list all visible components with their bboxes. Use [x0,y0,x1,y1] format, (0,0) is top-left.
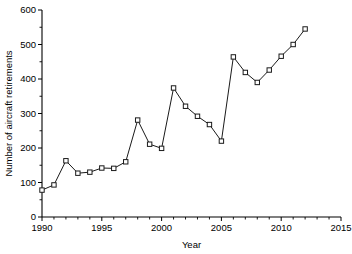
x-tick-label-1990: 1990 [31,222,52,233]
y-tick-label-100: 100 [20,177,36,188]
data-point-marker [291,42,295,46]
x-axis-title: Year [182,239,201,250]
data-point-marker [100,166,104,170]
y-tick-label-600: 600 [20,4,36,15]
y-tick-label-400: 400 [20,73,36,84]
data-series-aircraft-retirements [40,27,308,193]
x-axis: 199019952000200520102015 [31,217,351,233]
data-point-marker [303,27,307,31]
y-tick-label-300: 300 [20,108,36,119]
data-point-marker [231,55,235,59]
data-point-marker [219,139,223,143]
data-point-marker [76,171,80,175]
x-tick-label-1995: 1995 [91,222,112,233]
y-tick-label-200: 200 [20,142,36,153]
data-point-marker [52,183,56,187]
x-tick-label-2015: 2015 [330,222,351,233]
y-tick-label-0: 0 [31,211,36,222]
data-point-marker [171,86,175,90]
chart-figure: 0100200300400500600 19901995200020052010… [0,0,352,254]
data-point-marker [183,104,187,108]
data-point-marker [112,166,116,170]
y-tick-label-500: 500 [20,39,36,50]
data-point-marker [64,159,68,163]
data-point-marker [135,118,139,122]
x-tick-label-2005: 2005 [211,222,232,233]
data-point-marker [279,54,283,58]
data-point-marker [124,160,128,164]
y-axis-title: Number of aircraft retirements [3,50,14,176]
data-point-marker [207,122,211,126]
data-point-marker [195,114,199,118]
line-chart: 0100200300400500600 19901995200020052010… [0,0,352,254]
data-point-marker [40,188,44,192]
data-point-marker [147,142,151,146]
data-point-marker [255,80,259,84]
data-point-marker [88,170,92,174]
x-tick-label-2000: 2000 [151,222,172,233]
y-axis: 0100200300400500600 [20,4,42,222]
data-point-marker [243,70,247,74]
data-point-marker [267,68,271,72]
x-tick-label-2010: 2010 [271,222,292,233]
data-point-marker [159,146,163,150]
